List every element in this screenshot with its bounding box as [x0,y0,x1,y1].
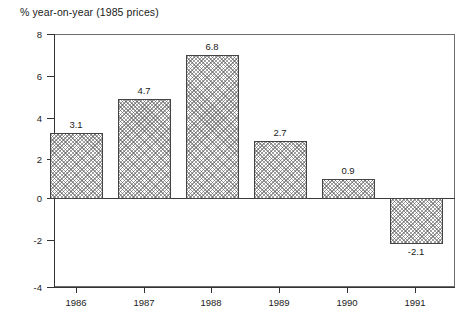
x-tick-label-1987: 1987 [119,298,169,308]
y-tick-mark-4 [47,118,54,119]
bar-value-label-1991: -2.1 [386,247,446,257]
x-tick-label-1989: 1989 [254,298,304,308]
y-tick-label-minus2: -2 [12,236,42,246]
y-tick-label-2: 2 [12,155,42,165]
bar-1990 [322,179,375,199]
y-tick-label-minus4: -4 [12,283,42,293]
y-tick-mark-minus2 [47,240,54,241]
x-tick-label-1991: 1991 [390,298,440,308]
x-tick-label-1988: 1988 [186,298,236,308]
y-tick-label-4: 4 [12,114,42,124]
bar-1991 [390,198,443,244]
bar-1987 [118,99,171,199]
x-axis-line [54,287,455,288]
x-tick-mark-1986 [76,287,77,293]
chart-screenshot: % year-on-year (1985 prices) 8 6 4 2 0 -… [0,0,471,326]
bar-1986 [50,133,103,199]
bar-value-label-1987: 4.7 [114,86,174,96]
bar-value-label-1989: 2.7 [250,128,310,138]
y-tick-label-6: 6 [12,72,42,82]
x-tick-mark-1990 [347,287,348,293]
x-tick-mark-1987 [144,287,145,293]
x-tick-mark-1988 [211,287,212,293]
x-tick-mark-1991 [415,287,416,293]
y-tick-label-0: 0 [12,194,42,204]
bar-1989 [254,141,307,199]
x-tick-label-1986: 1986 [51,298,101,308]
y-tick-label-8: 8 [12,30,42,40]
bar-value-label-1988: 6.8 [182,42,242,52]
bar-value-label-1986: 3.1 [46,120,106,130]
bar-1988 [186,55,239,199]
y-tick-mark-6 [47,76,54,77]
chart-title: % year-on-year (1985 prices) [20,6,159,18]
bar-value-label-1990: 0.9 [318,166,378,176]
x-tick-label-1990: 1990 [322,298,372,308]
x-tick-mark-1989 [279,287,280,293]
y-tick-mark-8 [47,34,54,35]
y-tick-mark-minus4 [47,287,54,288]
